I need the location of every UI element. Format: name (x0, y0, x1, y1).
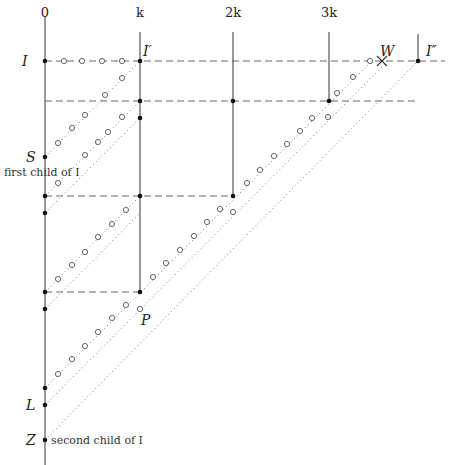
column-labels: 0k2k3k (41, 5, 337, 20)
hollow-circle (55, 140, 60, 145)
dotted-diagonal (45, 213, 140, 309)
filled-dot (231, 99, 236, 104)
dotted-diagonal (45, 61, 418, 440)
hollow-circle (119, 114, 124, 119)
filled-dot (138, 290, 143, 295)
hollow-circle (367, 58, 372, 63)
hollow-circle (217, 206, 222, 211)
column-label-col-2k: 2k (225, 5, 241, 20)
filled-dot (138, 59, 143, 64)
filled-dot (43, 290, 48, 295)
hollow-circle (82, 152, 87, 157)
proof-diagram: I I′ I″ W S first child of I P L Z secon… (0, 0, 457, 465)
dotted-diagonal (45, 61, 388, 405)
label-L: L (25, 397, 35, 413)
column-label-col-k: k (136, 5, 144, 20)
hollow-circle (69, 356, 74, 361)
diagram-labels: I I′ I″ W S first child of I P L Z secon… (4, 43, 438, 448)
filled-dot (43, 194, 48, 199)
hollow-circle (350, 74, 355, 79)
column-label-col-3k: 3k (321, 5, 337, 20)
filled-dot (43, 155, 48, 160)
hollow-circle (325, 114, 330, 119)
label-first-child: first child of I (4, 166, 80, 179)
hollow-circle (79, 58, 84, 63)
hollow-circle (55, 276, 60, 281)
filled-dot (231, 194, 236, 199)
hollow-circle (150, 274, 155, 279)
filled-dot (138, 116, 143, 121)
hollow-circle (82, 112, 87, 117)
hollow-circle (163, 260, 168, 265)
hollow-circle (284, 141, 289, 146)
hollow-circle (204, 219, 209, 224)
hollow-circle (244, 180, 249, 185)
hollow-circle (177, 247, 182, 252)
label-Z: Z (25, 432, 36, 448)
hollow-circle (309, 115, 314, 120)
label-I-double-prime: I″ (425, 43, 438, 59)
hollow-circle (55, 180, 60, 185)
hollow-circle (109, 221, 114, 226)
hollow-circle (119, 75, 124, 80)
hollow-circle (123, 302, 128, 307)
hollow-circle (99, 58, 104, 63)
hollow-circle (119, 58, 124, 63)
hollow-circle (82, 249, 87, 254)
dotted-diagonals (45, 61, 418, 440)
hollow-circle (109, 315, 114, 320)
label-P: P (140, 312, 151, 328)
hollow-circle (123, 207, 128, 212)
filled-dot (43, 403, 48, 408)
hollow-circle (61, 58, 66, 63)
label-I-prime: I′ (142, 43, 153, 59)
hollow-circle (55, 371, 60, 376)
filled-dot (138, 99, 143, 104)
label-I: I (21, 53, 28, 69)
filled-dot (327, 99, 332, 104)
filled-dot (43, 211, 48, 216)
hollow-circle (95, 234, 100, 239)
hollow-circle (69, 125, 74, 130)
filled-dot (43, 438, 48, 443)
hollow-circle (137, 306, 142, 311)
hollow-circle (230, 209, 235, 214)
hollow-circle (271, 153, 276, 158)
filled-dot (43, 59, 48, 64)
hollow-circle-markers (55, 58, 372, 376)
hollow-circle (257, 167, 262, 172)
hollow-circle (95, 139, 100, 144)
filled-dot (416, 59, 421, 64)
hollow-circle (334, 90, 339, 95)
column-label-col-0: 0 (41, 5, 49, 20)
filled-dot (43, 386, 48, 391)
hollow-circle (102, 92, 107, 97)
label-W: W (380, 43, 396, 59)
column-lines (45, 17, 418, 465)
hollow-circle (95, 329, 100, 334)
hollow-circle (191, 233, 196, 238)
hollow-circle (69, 262, 74, 267)
filled-dot-markers (43, 59, 421, 443)
filled-dot (43, 307, 48, 312)
label-S: S (26, 149, 36, 165)
hollow-circle (105, 129, 110, 134)
filled-dot (138, 194, 143, 199)
hollow-circle (297, 128, 302, 133)
hollow-circle (82, 343, 87, 348)
label-second-child: second child of I (51, 434, 143, 447)
